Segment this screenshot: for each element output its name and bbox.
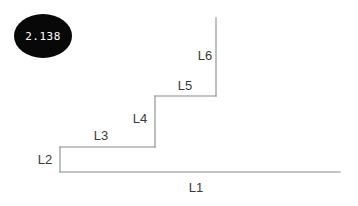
branch-label-L3: L3 <box>94 128 108 143</box>
branch-label-L5: L5 <box>178 78 192 93</box>
branch-label-L4: L4 <box>133 111 147 126</box>
tree-diagram-svg: L1 L2 L3 L4 L5 L6 2.138 <box>0 0 358 206</box>
branch-labels-group: L1 L2 L3 L4 L5 L6 <box>38 48 212 195</box>
branch-label-L2: L2 <box>38 152 52 167</box>
score-badge: 2.138 <box>14 14 72 58</box>
branch-lines-group <box>60 18 340 172</box>
tree-diagram-canvas: L1 L2 L3 L4 L5 L6 2.138 <box>0 0 358 206</box>
branch-label-L6: L6 <box>198 48 212 63</box>
score-badge-value: 2.138 <box>25 30 61 43</box>
branch-label-L1: L1 <box>189 180 203 195</box>
